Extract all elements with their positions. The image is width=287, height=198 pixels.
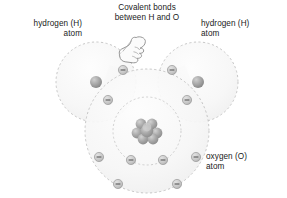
electron-shared-left-lower bbox=[103, 95, 112, 104]
atom-oxygen bbox=[85, 69, 209, 193]
electron-oxygen-outer-right bbox=[191, 152, 200, 161]
label-covalent-bonds: Covalent bonds between H and O bbox=[101, 3, 193, 24]
electron-oxygen-inner-right bbox=[158, 155, 167, 164]
electron-oxygen-inner-left bbox=[126, 155, 135, 164]
electron-shared-right-upper bbox=[167, 65, 176, 74]
electron-oxygen-outer-bottom-right bbox=[172, 179, 181, 188]
hydrogen-left-nucleus bbox=[90, 76, 102, 88]
label-oxygen: oxygen (O) atom bbox=[206, 152, 284, 173]
electron-oxygen-outer-bottom-left bbox=[113, 179, 122, 188]
electron-shared-right-lower bbox=[182, 95, 191, 104]
label-hydrogen-left: hydrogen (H) atom bbox=[6, 19, 82, 40]
diagram-canvas: hydrogen (H) atom Covalent bonds between… bbox=[0, 0, 287, 198]
label-hydrogen-right: hydrogen (H) atom bbox=[201, 19, 283, 40]
electron-oxygen-outer-left bbox=[94, 152, 103, 161]
electron-shared-left-upper bbox=[118, 65, 127, 74]
hydrogen-right-nucleus bbox=[192, 76, 204, 88]
